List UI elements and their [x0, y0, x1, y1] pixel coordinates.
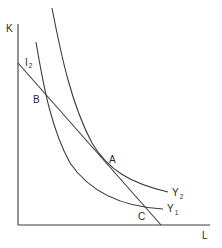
- isoquant-diagram: K L I2 Y2 Y1 A B C: [0, 0, 222, 248]
- isocost-label: I2: [25, 57, 33, 69]
- isoquant-y1-label: Y1: [167, 203, 179, 216]
- isoquant-y1-curve: [36, 42, 163, 209]
- point-c-label: C: [138, 211, 145, 222]
- k-axis-label: K: [6, 23, 13, 34]
- point-a-label: A: [109, 154, 116, 165]
- point-b-label: B: [33, 94, 40, 105]
- isocost-line-i2: [18, 63, 161, 225]
- isoquant-y2-label: Y2: [172, 187, 184, 200]
- l-axis-label: L: [202, 230, 208, 241]
